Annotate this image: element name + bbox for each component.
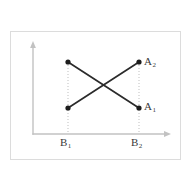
series-label-a1-base: A (144, 100, 152, 112)
y-axis-arrowhead (30, 41, 36, 48)
x-axis-tick-label-b1-subscript: 1 (68, 142, 72, 150)
series-label-a2-base: A (144, 55, 152, 67)
series-label-a2: A2 (144, 56, 156, 67)
x-axis-tick-label-b2: B2 (131, 137, 142, 148)
series-label-a1-subscript: 1 (152, 106, 156, 114)
series-label-a1: A1 (144, 101, 156, 112)
data-marker (65, 105, 70, 110)
data-marker (65, 59, 70, 64)
x-axis-tick-label-b1-base: B (60, 136, 68, 148)
series-label-a2-subscript: 2 (152, 61, 156, 69)
figure-root: A2 A1 B1 B2 (0, 0, 193, 177)
data-marker (136, 105, 141, 110)
data-marker (136, 59, 141, 64)
clipped-caption-text (62, 168, 158, 176)
x-axis-tick-label-b2-base: B (131, 136, 139, 148)
x-axis-tick-label-b2-subscript: 2 (139, 142, 143, 150)
plot-canvas (0, 0, 193, 177)
x-axis-tick-label-b1: B1 (60, 137, 71, 148)
x-axis-arrowhead (164, 131, 171, 137)
